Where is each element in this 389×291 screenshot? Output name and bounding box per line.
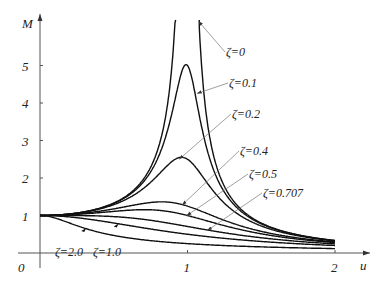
curve-marker [81,228,86,232]
x-tick-label: 1 [184,260,191,275]
curve-label: ζ=2.0 [55,245,83,259]
y-tick-label: 5 [22,59,29,74]
curve-label: ζ=0.707 [263,186,304,200]
y-tick-label: 2 [22,171,29,186]
curve-label: ζ=1.0 [93,245,121,259]
x-axis-label: u [360,258,367,273]
y-tick-label: 1 [22,209,29,224]
x-tick-label: 2 [331,260,338,275]
curve-label: ζ=0.2 [232,107,260,121]
curve-label: ζ=0.1 [229,76,257,90]
x-tick-label: 0 [18,260,25,275]
y-tick-label: 4 [22,96,29,111]
curves [40,20,335,249]
curve-ζ=0 [40,20,335,241]
y-axis-label: M [21,16,34,31]
curve-label: ζ=0.5 [249,167,277,181]
y-tick-label: 3 [21,134,29,149]
leader-line [207,193,262,231]
curve-label: ζ=0.4 [240,144,268,158]
leader-line [179,114,231,159]
curve-labels: ζ=0ζ=0.1ζ=0.2ζ=0.4ζ=0.5ζ=0.707ζ=1.0ζ=2.0 [55,21,304,259]
curve-label: ζ=0 [226,45,245,59]
leader-line [198,21,225,52]
leader-line [197,83,228,94]
curve-ζ=0.4 [40,202,335,242]
chart: M u 12345 012 ζ=0ζ=0.1ζ=0.2ζ=0.4ζ=0.5ζ=0… [0,0,389,291]
axes: M u 12345 012 [18,14,370,275]
